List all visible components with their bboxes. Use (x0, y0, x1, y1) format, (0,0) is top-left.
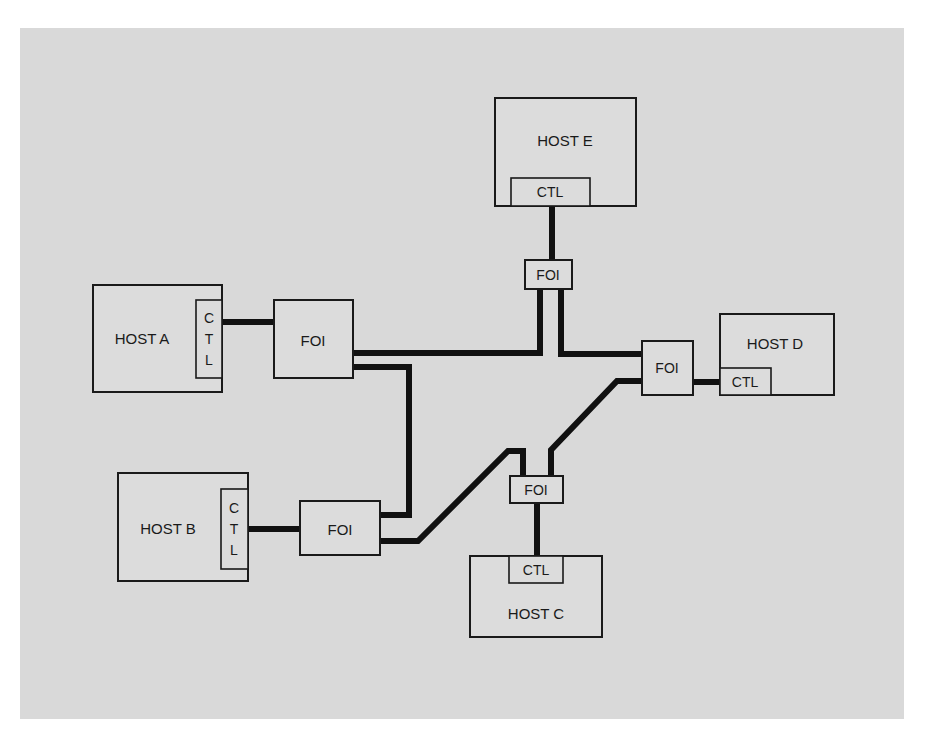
host-b-ctl-letter-t: T (230, 521, 239, 537)
link-foi-b-foi-c (380, 451, 523, 541)
host-e-label: HOST E (537, 132, 593, 149)
host-d-ctl-label: CTL (732, 374, 759, 390)
link-foi-e-foi-d (561, 289, 642, 354)
foi-a-label: FOI (301, 332, 326, 349)
foi-d-label: FOI (655, 360, 678, 376)
foi-b: FOI (300, 501, 380, 555)
foi-c-label: FOI (524, 482, 547, 498)
host-a: HOST A C T L (93, 285, 222, 392)
host-b-ctl-letter-l: L (230, 542, 238, 558)
host-e: HOST E CTL (495, 98, 636, 206)
foi-e: FOI (525, 260, 572, 289)
link-foi-a-foi-b (353, 367, 409, 515)
host-d: HOST D CTL (720, 314, 834, 395)
host-b-ctl-letter-c: C (229, 500, 239, 516)
host-c-label: HOST C (508, 605, 565, 622)
host-c: CTL HOST C (470, 556, 602, 637)
foi-c: FOI (510, 476, 563, 503)
link-foi-c-foi-d (551, 381, 642, 476)
host-b-label: HOST B (140, 520, 196, 537)
host-c-ctl-label: CTL (523, 562, 550, 578)
host-b: HOST B C T L (118, 473, 248, 581)
foi-a: FOI (274, 300, 353, 378)
foi-d: FOI (642, 341, 693, 395)
link-foi-a-foi-e (353, 289, 540, 353)
foi-b-label: FOI (328, 521, 353, 538)
host-a-label: HOST A (115, 330, 170, 347)
host-a-ctl-letter-t: T (205, 331, 214, 347)
host-a-ctl-letter-l: L (205, 352, 213, 368)
host-a-ctl-letter-c: C (204, 310, 214, 326)
host-e-ctl-label: CTL (537, 184, 564, 200)
foi-e-label: FOI (536, 267, 559, 283)
host-d-label: HOST D (747, 335, 804, 352)
network-diagram: HOST E CTL FOI HOST A C T L FOI FOI HOST… (0, 0, 925, 751)
